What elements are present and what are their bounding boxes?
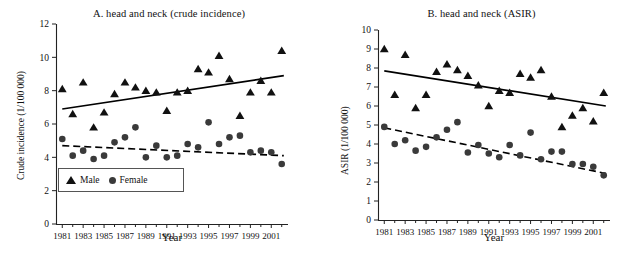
svg-text:8: 8 [44,86,49,96]
panel-a-crude-incidence: A. head and neck (crude incidence) Crude… [0,0,320,257]
triangle-marker-icon [66,176,76,184]
panel-b-title: B. head and neck (ASIR) [320,8,637,19]
figure-container: A. head and neck (crude incidence) Crude… [0,0,637,257]
panel-a-title: A. head and neck (crude incidence) [0,8,320,19]
panel-b-asir: B. head and neck (ASIR) ASIR (1/100 000)… [320,0,637,257]
svg-text:0: 0 [366,215,371,225]
legend-label-male: Male [80,175,100,185]
panel-a-x-axis-label: Year [56,231,288,243]
svg-text:6: 6 [44,119,49,129]
svg-text:10: 10 [40,53,50,63]
svg-text:1: 1 [366,196,371,206]
panel-a-y-axis-label: Crude incidence (1/100 000) [16,71,26,180]
svg-text:8: 8 [366,63,371,73]
svg-text:5: 5 [366,120,371,130]
legend-label-female: Female [120,175,148,185]
svg-text:2: 2 [366,177,371,187]
svg-text:4: 4 [44,153,49,163]
panel-b-plot-area: 0123456789101981198319851987198919911993… [378,30,610,220]
panel-a-legend: Male Female [58,168,184,192]
svg-text:4: 4 [366,139,371,149]
svg-text:6: 6 [366,101,371,111]
svg-text:7: 7 [366,82,371,92]
panel-a-plot-area: 0246810121981198319851987198919911993199… [56,24,288,224]
legend-item-female: Female [109,175,148,185]
legend-item-male: Male [66,175,100,185]
svg-text:2: 2 [44,186,49,196]
svg-text:9: 9 [366,44,371,54]
svg-text:10: 10 [362,25,372,35]
svg-text:0: 0 [44,219,49,229]
svg-text:12: 12 [40,19,50,29]
svg-text:3: 3 [366,158,371,168]
panel-b-x-axis-label: Year [378,231,610,243]
panel-b-y-axis-label: ASIR (1/100 000) [340,106,350,175]
circle-marker-icon [109,177,116,184]
